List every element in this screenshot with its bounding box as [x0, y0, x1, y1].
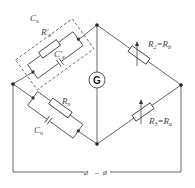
galvanometer-label: G: [93, 75, 101, 86]
label-rx-prime: R'x: [40, 27, 51, 38]
galvanometer-branch: G: [89, 25, 105, 144]
arm-r3: R3=Ra: [97, 85, 181, 144]
ac-source-terminals: ø – ø: [83, 168, 108, 177]
label-cx-prime: C'x: [54, 49, 65, 60]
label-r3-ra: R3=Ra: [148, 116, 172, 127]
terminal-left-icon: ø: [83, 168, 89, 177]
bridge-circuit-diagram: ø – ø G: [0, 0, 195, 188]
arm-cx: Cx R'x C'x: [13, 13, 97, 90]
node-left: [11, 82, 15, 86]
variable-resistor-r2-icon: [128, 46, 150, 64]
arm-rn-cn: Rn Cn: [13, 84, 97, 144]
node-bottom: [95, 142, 99, 146]
label-cn: Cn: [34, 125, 43, 136]
label-r2-rb: R2=Rb: [147, 39, 171, 50]
arm-r2: R2=Rb: [97, 25, 181, 85]
terminal-dash: –: [94, 168, 100, 177]
terminal-right-icon: ø: [102, 168, 108, 177]
node-right: [179, 83, 183, 87]
label-cx: Cx: [30, 13, 39, 24]
label-rn: Rn: [61, 96, 71, 107]
node-top: [95, 23, 99, 27]
